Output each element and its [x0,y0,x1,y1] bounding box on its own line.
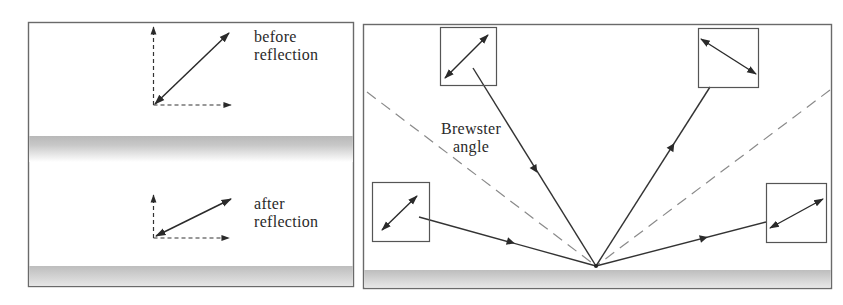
reflecting-surface-band [364,270,831,287]
brewster-label-line2: angle [437,138,505,156]
after-label-line1: after [254,195,318,213]
before-label-line2: reflection [254,46,318,64]
brewster-angle-label: Brewster angle [437,120,505,156]
right-panel-frame [364,25,832,289]
reflection-polarization-figure [0,0,843,305]
before-label-line1: before [254,28,318,46]
right-panel [364,25,832,289]
lower-surface-band [29,266,353,286]
brewster-label-line1: Brewster [437,120,505,138]
reflection-point [594,264,598,268]
after-reflection-label: after reflection [254,195,318,231]
after-label-line2: reflection [254,213,318,231]
before-reflection-label: before reflection [254,28,318,64]
upper-surface-band [29,136,353,162]
